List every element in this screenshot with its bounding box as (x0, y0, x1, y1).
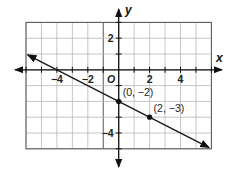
data-point (116, 99, 121, 104)
x-tick-label: 4 (178, 73, 184, 85)
x-tick-label: −4 (51, 73, 63, 85)
x-axis-label: x (215, 51, 224, 65)
axes (15, 9, 222, 167)
y-tick-label: 2 (108, 32, 114, 44)
y-axis-label: y (124, 3, 133, 17)
origin-label: O (107, 73, 115, 85)
point-label: (0, −2) (123, 86, 154, 98)
point-label: (2, −3) (154, 102, 185, 114)
labeled-points: (0, −2)(2, −3) (116, 86, 184, 119)
y-tick-label: −4 (102, 127, 114, 139)
x-tick-label: 2 (147, 73, 153, 85)
coordinate-plane: −4−224 2−4 x y O (0, −2)(2, −3) (0, 0, 234, 170)
data-point (147, 115, 152, 120)
x-tick-labels: −4−224 (51, 73, 184, 85)
